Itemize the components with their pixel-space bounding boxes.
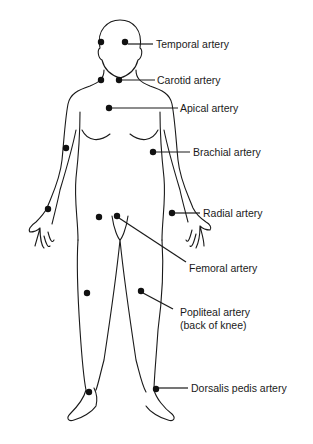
brachial-artery-label: Brachial artery — [193, 146, 261, 158]
femoral-left-point — [96, 214, 102, 220]
body-outline-figure — [0, 0, 313, 444]
radial-right-point — [169, 210, 175, 216]
temporal-left-point — [98, 39, 104, 45]
torso-right-outline — [136, 70, 211, 248]
carotid-artery-label: Carotid artery — [157, 74, 221, 86]
brachial-left-point — [63, 145, 69, 151]
dorsalis-pedis-artery-label: Dorsalis pedis artery — [191, 382, 287, 394]
apical-point — [106, 105, 112, 111]
femoral-artery-label: Femoral artery — [189, 262, 257, 274]
popliteal-artery-label: Popliteal artery — [180, 306, 250, 318]
radial-left-point — [45, 206, 51, 212]
crotch-line — [112, 216, 128, 240]
legs-outline — [68, 240, 174, 421]
dorsalis-right-point — [153, 386, 159, 392]
temporal-right-point — [122, 39, 128, 45]
torso-outline — [29, 70, 104, 248]
popliteal-leader — [143, 293, 173, 309]
head-outline — [98, 20, 141, 78]
popliteal-left-point — [84, 290, 90, 296]
femoral-leader — [119, 218, 186, 262]
radial-artery-label: Radial artery — [203, 207, 263, 219]
dorsalis-left-point — [86, 389, 92, 395]
carotid-left-point — [98, 77, 104, 83]
temporal-artery-label: Temporal artery — [156, 38, 229, 50]
brachial-right-point — [150, 149, 156, 155]
popliteal-artery-note: (back of knee) — [180, 319, 247, 331]
apical-artery-label: Apical artery — [180, 102, 238, 114]
chest-lines — [82, 130, 158, 140]
carotid-right-point — [116, 77, 122, 83]
